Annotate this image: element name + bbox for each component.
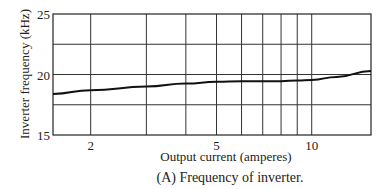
y-axis-label: Inverter frequency (kHz) bbox=[17, 9, 32, 139]
frequency-chart: 152025 2510 Inverter frequency (kHz) Out… bbox=[0, 0, 389, 189]
y-tick-label: 25 bbox=[37, 7, 50, 22]
y-tick-label: 15 bbox=[37, 128, 50, 143]
chart-caption: (A) Frequency of inverter. bbox=[157, 170, 304, 186]
y-tick-labels: 152025 bbox=[37, 7, 50, 143]
x-axis-label: Output current (amperes) bbox=[160, 149, 291, 164]
x-tick-label: 10 bbox=[305, 138, 318, 153]
x-tick-label: 2 bbox=[87, 138, 94, 153]
grid-lines bbox=[53, 14, 371, 135]
y-tick-label: 20 bbox=[37, 68, 50, 83]
